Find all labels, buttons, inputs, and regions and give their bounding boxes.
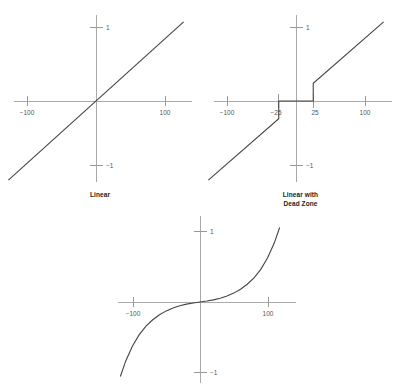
chart-panel-expo: −100 100 1 −1 xyxy=(100,205,301,391)
expo-response-plot: −100 100 1 −1 xyxy=(100,205,301,391)
deadzone-tick-labels: −100 −25 25 100 1 −1 xyxy=(220,24,371,169)
y-tick-label-neg1: −1 xyxy=(306,162,314,169)
x-tick-label-100: 100 xyxy=(360,109,371,116)
x-tick-label-100: 100 xyxy=(263,310,274,317)
linear-tick-labels: −100 100 1 −1 xyxy=(20,24,171,169)
x-tick-label-neg100: −100 xyxy=(126,310,141,317)
chart-panel-linear: −100 100 1 −1 Linear xyxy=(0,0,200,205)
x-tick-label-25: 25 xyxy=(311,109,319,116)
y-tick-label-1: 1 xyxy=(106,24,110,31)
x-tick-label-neg100: −100 xyxy=(20,109,35,116)
caption-deadzone-line1: Linear with xyxy=(200,190,401,199)
deadzone-response-plot: −100 −25 25 100 1 −1 xyxy=(200,0,401,205)
expo-axes xyxy=(118,216,296,383)
x-tick-label-neg25: −25 xyxy=(270,109,281,116)
y-tick-label-neg1: −1 xyxy=(210,369,218,376)
chart-panel-deadzone: −100 −25 25 100 1 −1 Linear with Dead Zo… xyxy=(200,0,401,205)
caption-linear: Linear xyxy=(0,190,200,199)
caption-linear-text: Linear xyxy=(90,191,110,198)
x-tick-label-100: 100 xyxy=(160,109,171,116)
y-tick-label-1: 1 xyxy=(210,228,214,235)
x-tick-label-neg100: −100 xyxy=(220,109,235,116)
linear-response-plot: −100 100 1 −1 xyxy=(0,0,200,205)
y-tick-label-1: 1 xyxy=(306,24,310,31)
y-tick-label-neg1: −1 xyxy=(106,162,114,169)
